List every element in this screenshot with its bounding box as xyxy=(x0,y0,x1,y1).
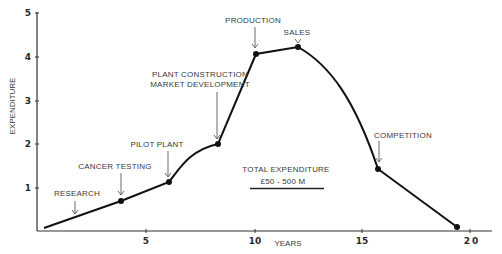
axes xyxy=(35,12,492,233)
y-axis-title: EXPENDITURE xyxy=(8,78,17,135)
annotation-production: PRODUCTION xyxy=(225,16,281,48)
x-tick-label-15: 15 xyxy=(356,236,369,246)
point-competition xyxy=(375,166,381,172)
y-tick-label-2: 2 xyxy=(25,139,31,149)
y-tick-label-4: 4 xyxy=(25,52,31,62)
label-pilot-plant: PILOT PLANT xyxy=(130,140,183,149)
annotation-sales: SALES xyxy=(284,28,311,43)
x-axis-title: YEARS xyxy=(274,239,301,248)
label-plant-construction: PLANT CONSTRUCTION xyxy=(152,70,248,79)
annotation-total-expenditure: TOTAL EXPENDITURE £50 - 500 M xyxy=(242,165,329,189)
annotation-pilot-plant: PILOT PLANT xyxy=(130,140,183,177)
y-tick-label-3: 3 xyxy=(25,96,31,106)
label-total-value: £50 - 500 M xyxy=(261,177,306,186)
label-total-expenditure: TOTAL EXPENDITURE xyxy=(242,165,329,174)
label-production: PRODUCTION xyxy=(225,16,281,25)
point-plant-construction xyxy=(215,141,221,147)
chart: 5 4 3 2 1 5 10 15 20 YEARS EXPENDITURE R… xyxy=(0,0,502,254)
point-cancer-testing xyxy=(118,198,124,204)
point-pilot-plant xyxy=(166,179,172,185)
point-end xyxy=(454,224,460,230)
y-tick-label-5: 5 xyxy=(25,8,31,18)
label-cancer-testing: CANCER TESTING xyxy=(78,162,151,171)
x-tick-label-5: 5 xyxy=(143,236,149,246)
point-production xyxy=(253,51,259,57)
arrow-down-icon xyxy=(295,39,301,43)
x-tick-label-20: 20 xyxy=(464,236,481,246)
label-research: RESEARCH xyxy=(54,189,100,198)
y-tick-label-1: 1 xyxy=(25,183,31,193)
annotation-competition: COMPETITION xyxy=(374,131,432,162)
label-market-development: MARKET DEVELOPMENT xyxy=(150,80,249,89)
point-sales xyxy=(295,44,301,50)
x-tick-label-10: 10 xyxy=(249,236,262,246)
label-competition: COMPETITION xyxy=(374,131,432,140)
label-sales: SALES xyxy=(284,28,311,37)
